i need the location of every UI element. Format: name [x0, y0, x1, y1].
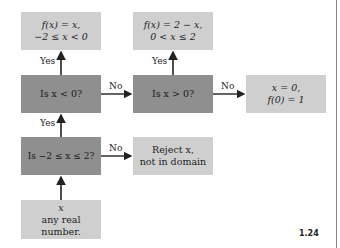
result-zero-value: x = 0,	[272, 82, 300, 94]
reject-box: Reject x, not in domain	[133, 137, 213, 175]
reject-line2: not in domain	[140, 156, 206, 168]
input-variable: x	[58, 202, 63, 214]
page-edge-rule	[336, 0, 337, 248]
reject-line1: Reject x,	[152, 144, 194, 156]
input-box: x any real number.	[21, 200, 101, 239]
label-domain-yes: Yes	[40, 118, 55, 128]
result-negative-range: −2 ≤ x < 0	[34, 31, 87, 43]
decision-less-than-zero: Is x < 0?	[21, 75, 101, 113]
decision-domain-text: Is −2 ≤ x ≤ 2?	[28, 150, 94, 162]
label-gt0-no: No	[221, 81, 234, 91]
figure-number: 1.24	[299, 229, 319, 238]
label-gt0-yes: Yes	[152, 56, 167, 66]
result-positive-formula: f(x) = 2 − x,	[144, 19, 203, 31]
label-lt0-yes: Yes	[40, 56, 55, 66]
result-negative-box: f(x) = x, −2 ≤ x < 0	[21, 12, 101, 50]
label-domain-no: No	[109, 143, 122, 153]
decision-less-than-zero-text: Is x < 0?	[40, 88, 82, 100]
decision-greater-than-zero-text: Is x > 0?	[152, 88, 194, 100]
input-line2: any real	[41, 214, 80, 226]
result-positive-range: 0 < x ≤ 2	[150, 31, 195, 43]
decision-greater-than-zero: Is x > 0?	[133, 75, 213, 113]
result-zero-formula: f(0) = 1	[267, 94, 304, 106]
result-positive-box: f(x) = 2 − x, 0 < x ≤ 2	[133, 12, 213, 50]
result-negative-formula: f(x) = x,	[42, 19, 81, 31]
result-zero-box: x = 0, f(0) = 1	[246, 75, 326, 113]
decision-domain: Is −2 ≤ x ≤ 2?	[21, 137, 101, 175]
label-lt0-no: No	[109, 81, 122, 91]
input-line3: number.	[41, 226, 80, 238]
